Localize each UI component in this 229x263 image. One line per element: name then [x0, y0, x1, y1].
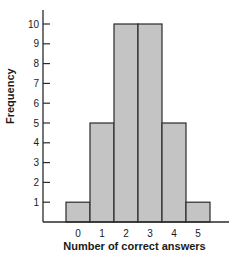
x-tick-label: 2 — [123, 228, 129, 239]
y-tick-label: 9 — [33, 38, 39, 49]
bar-2 — [114, 24, 138, 222]
bar-3 — [138, 24, 162, 222]
y-axis-label: Frequency — [4, 68, 16, 124]
y-tick-label: 7 — [33, 78, 39, 89]
bar-5 — [186, 202, 210, 222]
x-tick-label: 0 — [75, 228, 81, 239]
x-axis-label: Number of correct answers — [0, 240, 229, 252]
bar-1 — [90, 123, 114, 222]
y-tick-label: 6 — [33, 98, 39, 109]
bar-4 — [162, 123, 186, 222]
y-tick-label: 5 — [33, 118, 39, 129]
y-tick-label: 1 — [33, 197, 39, 208]
x-tick-label: 4 — [171, 228, 177, 239]
y-tick-label: 2 — [33, 177, 39, 188]
y-tick-label: 8 — [33, 58, 39, 69]
y-tick-label: 10 — [28, 19, 40, 30]
histogram-chart: 01234512345678910 — [0, 0, 229, 263]
x-tick-label: 5 — [195, 228, 201, 239]
y-tick-label: 3 — [33, 157, 39, 168]
y-tick-label: 4 — [33, 137, 39, 148]
x-tick-label: 3 — [147, 228, 153, 239]
x-tick-label: 1 — [99, 228, 105, 239]
bar-0 — [66, 202, 90, 222]
